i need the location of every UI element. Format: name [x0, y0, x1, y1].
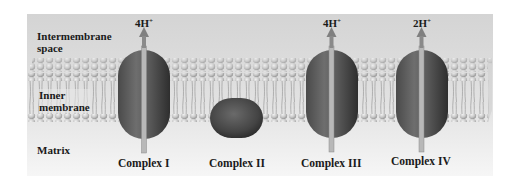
proton-label-complex-1: 4H+ [135, 15, 153, 29]
complex-1-label: Complex I [118, 157, 169, 169]
proton-label-complex-3: 4H+ [323, 15, 341, 29]
proton-channel [329, 46, 334, 152]
inner-membrane-label: Inner membrane [39, 89, 90, 113]
complex-2-label: Complex II [209, 157, 265, 169]
matrix-label: Matrix [37, 144, 70, 156]
proton-channel [142, 46, 147, 153]
complex-4-label: Complex IV [391, 155, 451, 167]
proton-channel [419, 46, 424, 152]
complex-3-label: Complex III [301, 157, 361, 169]
intermembrane-space-label: Intermembrane space [37, 30, 112, 54]
proton-label-complex-4: 2H+ [413, 15, 431, 29]
complex-2 [210, 98, 263, 138]
